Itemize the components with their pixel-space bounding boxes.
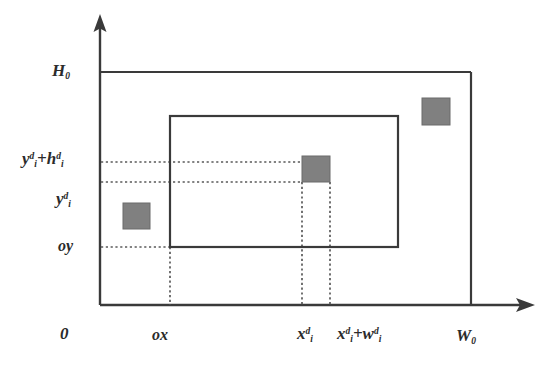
outer-bounding-box <box>100 72 471 305</box>
label-total-width: W0 <box>456 327 476 346</box>
blocks-group <box>123 98 450 229</box>
label-total-height: H0 <box>52 62 70 81</box>
label-origin: 0 <box>60 325 69 342</box>
block-top-right <box>422 98 450 125</box>
block-left <box>123 203 150 229</box>
block-placed <box>302 156 330 182</box>
label-offset-y: oy <box>58 238 73 254</box>
label-x-coordinate: xdi <box>297 325 313 344</box>
label-y-plus-height: ydi+hdi <box>22 150 64 169</box>
label-y-coordinate: ydi <box>56 190 71 209</box>
label-x-plus-width: xdi+wdi <box>337 325 381 344</box>
label-offset-x: ox <box>152 327 168 343</box>
diagram-graphics <box>0 0 547 375</box>
guide-lines-group <box>101 162 330 305</box>
diagram-canvas: H0 ydi+hdi ydi oy 0 ox xdi xdi+wdi W0 <box>0 0 547 375</box>
